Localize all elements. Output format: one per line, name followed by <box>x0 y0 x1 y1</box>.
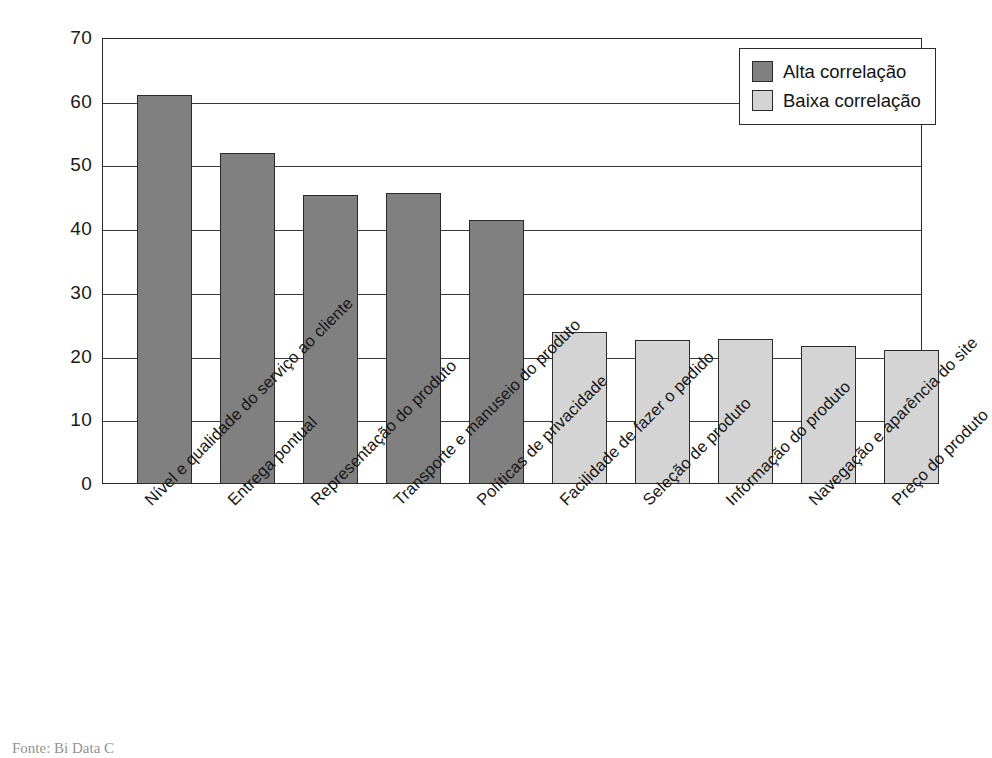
source-caption: Fonte: Bi Data C <box>12 740 114 757</box>
legend-label: Baixa correlação <box>783 90 921 112</box>
gridline <box>103 230 921 231</box>
y-axis: 010203040506070 <box>40 38 92 484</box>
y-axis-tick-label: 70 <box>46 27 92 49</box>
chart-legend: Alta correlaçãoBaixa correlação <box>739 48 936 125</box>
gridline <box>103 166 921 167</box>
legend-label: Alta correlação <box>783 61 906 83</box>
gridline <box>103 294 921 295</box>
gridline <box>103 358 921 359</box>
y-axis-tick-label: 30 <box>46 282 92 304</box>
y-axis-tick-label: 10 <box>46 409 92 431</box>
y-axis-tick-label: 40 <box>46 218 92 240</box>
y-axis-tick-label: 20 <box>46 346 92 368</box>
legend-item: Alta correlação <box>752 57 921 86</box>
gridline <box>103 421 921 422</box>
legend-item: Baixa correlação <box>752 86 921 115</box>
legend-swatch-icon <box>752 61 773 82</box>
y-axis-tick-label: 60 <box>46 91 92 113</box>
y-axis-tick-label: 0 <box>46 473 92 495</box>
legend-swatch-icon <box>752 90 773 111</box>
y-axis-tick-label: 50 <box>46 154 92 176</box>
